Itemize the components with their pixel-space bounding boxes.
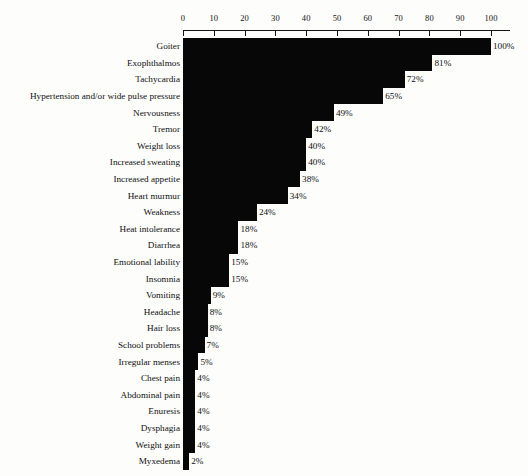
bar bbox=[183, 88, 383, 105]
category-label: Headache bbox=[144, 306, 180, 317]
x-axis-tick bbox=[429, 31, 430, 36]
bar-value-label: 5% bbox=[200, 356, 212, 367]
chart-row: Irregular menses5% bbox=[0, 353, 528, 370]
category-label: Chest pain bbox=[141, 373, 180, 384]
chart-row: Nervousness49% bbox=[0, 104, 528, 121]
bar-value-label: 4% bbox=[197, 389, 209, 400]
bar bbox=[183, 38, 491, 55]
chart-row: Emotional lability15% bbox=[0, 254, 528, 271]
bar-value-label: 40% bbox=[308, 140, 325, 151]
bar bbox=[183, 270, 229, 287]
x-axis-tick-label: 40 bbox=[302, 13, 311, 23]
chart-row: Heart murmur34% bbox=[0, 187, 528, 204]
x-axis-tick bbox=[183, 31, 184, 36]
bar bbox=[183, 254, 229, 271]
x-axis-tick-label: 80 bbox=[425, 13, 434, 23]
chart-row: Hair loss8% bbox=[0, 320, 528, 337]
x-axis-tick bbox=[337, 31, 338, 36]
chart-row: Weight gain4% bbox=[0, 436, 528, 453]
plot-area: Goiter100%Exophthalmos81%Tachycardia72%H… bbox=[0, 38, 528, 458]
chart-row: Dysphagia4% bbox=[0, 420, 528, 437]
x-axis-tick bbox=[460, 31, 461, 36]
category-label: Hair loss bbox=[147, 323, 180, 334]
bar bbox=[183, 436, 195, 453]
chart-row: Insomnia15% bbox=[0, 270, 528, 287]
bar-value-label: 4% bbox=[197, 406, 209, 417]
x-axis-tick-label: 50 bbox=[333, 13, 342, 23]
x-axis-tick-label: 90 bbox=[456, 13, 465, 23]
bar-value-label: 81% bbox=[434, 57, 451, 68]
bar bbox=[183, 237, 238, 254]
chart-row: Weakness24% bbox=[0, 204, 528, 221]
category-label: Hypertension and/or wide pulse pressure bbox=[30, 91, 180, 102]
category-label: Increased sweating bbox=[110, 157, 180, 168]
chart-row: Myxedema2% bbox=[0, 453, 528, 470]
category-label: Vomiting bbox=[146, 290, 180, 301]
x-axis-tick bbox=[275, 31, 276, 36]
bar bbox=[183, 55, 432, 72]
horizontal-bar-chart: 0102030405060708090100 Goiter100%Exophth… bbox=[0, 0, 528, 476]
x-axis-tick-label: 70 bbox=[394, 13, 403, 23]
category-label: School problems bbox=[118, 340, 180, 351]
x-axis-tick bbox=[306, 31, 307, 36]
bar bbox=[183, 353, 198, 370]
x-axis-tick bbox=[245, 31, 246, 36]
chart-row: Goiter100% bbox=[0, 38, 528, 55]
chart-row: Hypertension and/or wide pulse pressure6… bbox=[0, 88, 528, 105]
bar-value-label: 100% bbox=[493, 41, 514, 52]
bar bbox=[183, 154, 306, 171]
bar-value-label: 15% bbox=[231, 257, 248, 268]
bar bbox=[183, 453, 189, 470]
x-axis-tick bbox=[491, 31, 492, 36]
category-label: Irregular menses bbox=[119, 356, 180, 367]
bar bbox=[183, 221, 238, 238]
category-label: Myxedema bbox=[139, 456, 180, 467]
chart-row: Tachycardia72% bbox=[0, 71, 528, 88]
bar bbox=[183, 171, 300, 188]
bar bbox=[183, 370, 195, 387]
bar-value-label: 42% bbox=[314, 124, 331, 135]
category-label: Diarrhea bbox=[148, 240, 180, 251]
category-label: Exophthalmos bbox=[127, 57, 180, 68]
x-axis-tick-label: 30 bbox=[271, 13, 280, 23]
bar-value-label: 4% bbox=[197, 439, 209, 450]
chart-row: Tremor42% bbox=[0, 121, 528, 138]
bar bbox=[183, 304, 208, 321]
bar-value-label: 24% bbox=[259, 207, 276, 218]
x-axis-tick bbox=[214, 31, 215, 36]
bar bbox=[183, 187, 288, 204]
chart-row: Diarrhea18% bbox=[0, 237, 528, 254]
category-label: Emotional lability bbox=[113, 257, 180, 268]
bar bbox=[183, 138, 306, 155]
chart-row: Chest pain4% bbox=[0, 370, 528, 387]
chart-row: Weight loss40% bbox=[0, 138, 528, 155]
chart-row: Increased appetite38% bbox=[0, 171, 528, 188]
category-label: Weight loss bbox=[137, 140, 180, 151]
bar-value-label: 40% bbox=[308, 157, 325, 168]
bar-value-label: 65% bbox=[385, 91, 402, 102]
category-label: Nervousness bbox=[133, 107, 180, 118]
category-label: Heart murmur bbox=[128, 190, 180, 201]
x-axis-tick-label: 0 bbox=[181, 13, 185, 23]
bar-value-label: 8% bbox=[210, 306, 222, 317]
x-axis-tick-label: 100 bbox=[484, 13, 497, 23]
category-label: Weight gain bbox=[136, 439, 180, 450]
chart-row: Increased sweating40% bbox=[0, 154, 528, 171]
category-label: Increased appetite bbox=[113, 174, 180, 185]
bar-value-label: 49% bbox=[336, 107, 353, 118]
chart-row: Exophthalmos81% bbox=[0, 55, 528, 72]
category-label: Tachycardia bbox=[135, 74, 180, 85]
bar bbox=[183, 204, 257, 221]
bar bbox=[183, 71, 405, 88]
chart-row: Vomiting9% bbox=[0, 287, 528, 304]
bar bbox=[183, 403, 195, 420]
category-label: Heat intolerance bbox=[120, 223, 180, 234]
bar-value-label: 38% bbox=[302, 174, 319, 185]
bar-value-label: 18% bbox=[240, 240, 257, 251]
bar-value-label: 9% bbox=[213, 290, 225, 301]
bar bbox=[183, 287, 211, 304]
bar bbox=[183, 387, 195, 404]
category-label: Tremor bbox=[153, 124, 180, 135]
bar-value-label: 4% bbox=[197, 373, 209, 384]
category-label: Enuresis bbox=[148, 406, 180, 417]
